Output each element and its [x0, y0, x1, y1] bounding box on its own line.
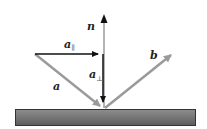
reflected-vector-b: [105, 55, 171, 108]
diagram-canvas: n a∥ a⊥ a b: [0, 0, 207, 129]
label-n: n: [87, 20, 95, 33]
label-b: b: [150, 49, 158, 62]
normal-arrowhead-icon: [101, 14, 108, 23]
reflecting-surface: [16, 110, 196, 126]
label-a: a: [53, 80, 60, 93]
reflection-vector-diagram: n a∥ a⊥ a b: [0, 0, 207, 129]
label-a-parallel: a∥: [64, 38, 75, 52]
label-a-perpendicular: a⊥: [89, 68, 103, 83]
